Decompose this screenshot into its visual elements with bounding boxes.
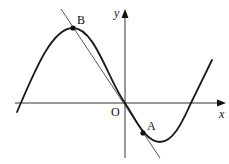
x-axis [15,100,226,107]
tangent-line [61,9,160,158]
point-a [140,130,145,135]
x-axis-label: x [218,107,225,121]
function-graph-figure: B A O y x [0,0,229,164]
y-axis-arrow-icon [122,9,129,18]
x-axis-arrow-icon [217,100,226,107]
function-curve [17,28,212,142]
y-axis-label: y [113,6,120,20]
point-a-label: A [147,119,156,133]
y-axis [122,9,129,158]
origin-label: O [111,105,120,119]
point-b [70,25,75,30]
point-b-label: B [77,13,85,27]
